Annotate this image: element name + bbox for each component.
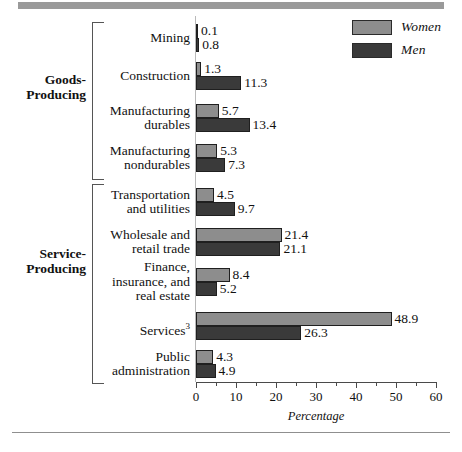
category-label-line: nondurables (44, 158, 190, 173)
bar-value-men-1: 0.8 (202, 38, 219, 52)
bar-women-7 (196, 268, 230, 282)
category-label-line: Public (44, 350, 190, 365)
x-tick-0 (196, 382, 197, 388)
bar-value-men-2: 11.3 (244, 76, 267, 90)
bar-women-3 (196, 104, 219, 118)
category-label-line: Transportation (44, 188, 190, 203)
x-tick-label-30: 30 (301, 389, 331, 405)
bar-men-7 (196, 282, 217, 296)
x-tick-label-20: 20 (261, 389, 291, 405)
category-footnote-marker: 3 (186, 321, 191, 331)
bar-value-women-1: 0.1 (201, 24, 218, 38)
category-label-line: Finance, (44, 260, 190, 275)
bar-men-9 (196, 364, 216, 378)
bar-value-women-3: 5.7 (222, 104, 239, 118)
category-label-line: retail trade (44, 242, 190, 257)
x-tick-label-60: 60 (421, 389, 451, 405)
bar-women-6 (196, 228, 282, 242)
x-tick-25 (296, 382, 297, 386)
category-label-line: durables (44, 118, 190, 133)
category-label-line: real estate (44, 289, 190, 304)
category-label-line: Services3 (44, 319, 190, 338)
bar-women-9 (196, 350, 213, 364)
category-label-line: Manufacturing (44, 144, 190, 159)
bar-value-men-4: 7.3 (228, 158, 245, 172)
bar-value-women-2: 1.3 (204, 62, 221, 76)
category-label-1: Mining (44, 31, 190, 46)
x-tick-10 (236, 382, 237, 388)
bar-value-men-9: 4.9 (219, 364, 236, 378)
bar-value-men-8: 26.3 (304, 326, 328, 340)
category-label-line: Mining (44, 31, 190, 46)
bar-women-5 (196, 188, 214, 202)
figure-container: Women Men Goods- Producing Service- Prod… (0, 0, 462, 452)
bar-value-women-4: 5.3 (220, 144, 237, 158)
category-label-5: Transportationand utilities (44, 188, 190, 217)
category-label-9: Publicadministration (44, 350, 190, 379)
x-tick-label-40: 40 (341, 389, 371, 405)
plot-area: 0.10.81.311.35.713.45.37.34.59.721.421.1… (196, 16, 436, 382)
bar-men-6 (196, 242, 280, 256)
x-tick-30 (316, 382, 317, 388)
bar-value-women-7: 8.4 (233, 268, 250, 282)
bar-women-1 (196, 24, 198, 38)
bar-value-men-5: 9.7 (238, 202, 255, 216)
category-label-8: Services3 (44, 319, 190, 338)
x-tick-60 (436, 382, 437, 388)
bar-value-men-3: 13.4 (253, 118, 277, 132)
bar-value-women-5: 4.5 (217, 188, 234, 202)
bar-value-women-8: 48.9 (395, 312, 419, 326)
bar-value-men-6: 21.1 (283, 242, 307, 256)
category-label-line: Manufacturing (44, 104, 190, 119)
x-tick-label-10: 10 (221, 389, 251, 405)
bar-men-3 (196, 118, 250, 132)
x-tick-55 (416, 382, 417, 386)
bar-men-1 (196, 38, 199, 52)
category-label-line: Wholesale and (44, 228, 190, 243)
category-label-line: insurance, and (44, 275, 190, 290)
bar-men-4 (196, 158, 225, 172)
bar-women-4 (196, 144, 217, 158)
x-tick-45 (376, 382, 377, 386)
category-label-2: Construction (44, 69, 190, 84)
category-label-3: Manufacturingdurables (44, 104, 190, 133)
x-axis-title: Percentage (196, 409, 436, 424)
category-label-line: administration (44, 364, 190, 379)
x-tick-20 (276, 382, 277, 388)
bottom-rule (12, 432, 450, 433)
category-label-4: Manufacturingnondurables (44, 144, 190, 173)
bar-men-5 (196, 202, 235, 216)
group-label-goods-line2: Producing (0, 87, 86, 102)
x-tick-50 (396, 382, 397, 388)
bar-men-8 (196, 326, 301, 340)
bar-value-women-9: 4.3 (216, 350, 233, 364)
category-label-line: Construction (44, 69, 190, 84)
bar-value-men-7: 5.2 (220, 282, 237, 296)
category-label-line: and utilities (44, 202, 190, 217)
x-tick-40 (356, 382, 357, 388)
bar-value-women-6: 21.4 (285, 228, 309, 242)
category-label-7: Finance,insurance, andreal estate (44, 260, 190, 304)
bar-women-8 (196, 312, 392, 326)
category-label-6: Wholesale andretail trade (44, 228, 190, 257)
bar-men-2 (196, 76, 241, 90)
x-tick-label-50: 50 (381, 389, 411, 405)
x-tick-15 (256, 382, 257, 386)
x-tick-label-0: 0 (181, 389, 211, 405)
x-tick-5 (216, 382, 217, 386)
x-tick-35 (336, 382, 337, 386)
top-rule (18, 2, 444, 9)
bar-women-2 (196, 62, 201, 76)
